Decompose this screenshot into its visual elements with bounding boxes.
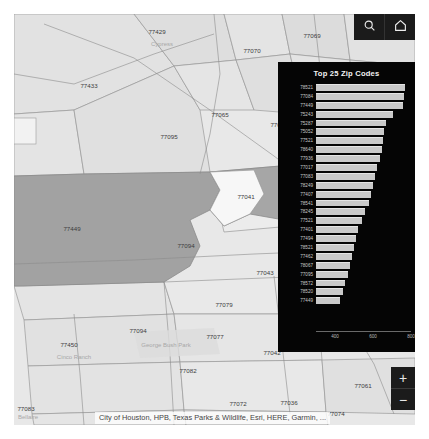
- home-button[interactable]: [384, 14, 415, 40]
- chart-bar-track: [316, 127, 411, 136]
- chart-bar-row[interactable]: 78521: [282, 83, 411, 92]
- chart-bar[interactable]: [316, 191, 371, 198]
- chart-bar-track: [316, 92, 411, 101]
- chart-bar-row[interactable]: 77449: [282, 101, 411, 110]
- chart-bar-track: [316, 252, 411, 261]
- chart-bar[interactable]: [316, 102, 403, 109]
- chart-bar-track: [316, 216, 411, 225]
- chart-bar-row[interactable]: 77521: [282, 136, 411, 145]
- chart-bar-row[interactable]: 77936: [282, 154, 411, 163]
- chart-bar-track: [316, 181, 411, 190]
- chart-bar-row[interactable]: 77449: [282, 296, 411, 305]
- chart-bar[interactable]: [316, 200, 369, 207]
- chart-bar[interactable]: [316, 226, 358, 233]
- chart-bar-track: [316, 207, 411, 216]
- chart-bar-row[interactable]: 75287: [282, 119, 411, 128]
- chart-bar-track: [316, 83, 411, 92]
- chart-bar-row[interactable]: 77017: [282, 163, 411, 172]
- chart-bar[interactable]: [316, 173, 375, 180]
- chart-bar-label: 78520: [282, 289, 316, 294]
- chart-bar[interactable]: [316, 84, 405, 91]
- chart-bar[interactable]: [316, 297, 340, 304]
- chart-x-axis: 400600800: [282, 331, 411, 345]
- chart-bar-row[interactable]: 77401: [282, 225, 411, 234]
- place-label: Cinco Ranch: [57, 354, 91, 360]
- chart-bar[interactable]: [316, 288, 343, 295]
- zip-label: 77082: [179, 367, 197, 374]
- chart-bar[interactable]: [316, 155, 380, 162]
- place-label: George Bush Park: [141, 342, 191, 348]
- chart-bar[interactable]: [316, 182, 373, 189]
- chart-bar-label: 78521: [282, 85, 316, 90]
- zip-label: 77069: [303, 32, 321, 39]
- zoom-in-button[interactable]: +: [391, 367, 415, 388]
- chart-bar-label: 77494: [282, 236, 316, 241]
- chart-bar[interactable]: [316, 253, 352, 260]
- chart-bar-row[interactable]: 77083: [282, 172, 411, 181]
- chart-bar-label: 75287: [282, 121, 316, 126]
- place-label: Bellaire: [18, 414, 39, 420]
- chart-bar-row[interactable]: 77095: [282, 270, 411, 279]
- chart-bar[interactable]: [316, 262, 350, 269]
- zip-label: 77036: [280, 399, 298, 406]
- search-icon: [363, 18, 376, 36]
- chart-bar-row[interactable]: 78520: [282, 287, 411, 296]
- chart-bar[interactable]: [316, 146, 382, 153]
- map-attribution: City of Houston, HPB, Texas Parks & Wild…: [95, 412, 330, 424]
- zip-label: 77094: [129, 327, 147, 334]
- zip-label: 77070: [243, 47, 261, 54]
- chart-bar[interactable]: [316, 235, 356, 242]
- axis-tick-label: 400: [331, 334, 339, 339]
- chart-bar-row[interactable]: 78245: [282, 207, 411, 216]
- chart-bar-track: [316, 261, 411, 270]
- chart-bar-row[interactable]: 77521: [282, 216, 411, 225]
- chart-bar[interactable]: [316, 111, 393, 118]
- chart-bar-row[interactable]: 77407: [282, 190, 411, 199]
- chart-bar-row[interactable]: 78249: [282, 181, 411, 190]
- chart-bar-label: 75243: [282, 112, 316, 117]
- map-application: 77429 77070 77069 77066 77433 77065 7706…: [0, 0, 429, 439]
- chart-bar-label: 77449: [282, 298, 316, 303]
- chart-bar[interactable]: [316, 208, 365, 215]
- search-button[interactable]: [354, 14, 384, 40]
- chart-bar-row[interactable]: 75052: [282, 127, 411, 136]
- chart-bar[interactable]: [316, 217, 362, 224]
- chart-bar-row[interactable]: 78521: [282, 243, 411, 252]
- chart-bar-track: [316, 199, 411, 208]
- chart-bar[interactable]: [316, 271, 348, 278]
- zip-label: 77041: [237, 193, 255, 200]
- map-tools-widget: [354, 14, 415, 40]
- chart-bar-row[interactable]: 78640: [282, 145, 411, 154]
- chart-bar-row[interactable]: 78067: [282, 261, 411, 270]
- chart-bar-label: 78640: [282, 147, 316, 152]
- chart-bar[interactable]: [316, 93, 404, 100]
- chart-bar[interactable]: [316, 120, 386, 127]
- zip-label: 77429: [148, 28, 166, 35]
- chart-bar-label: 78541: [282, 201, 316, 206]
- chart-bar-label: 77095: [282, 272, 316, 277]
- zoom-out-button[interactable]: −: [391, 388, 415, 410]
- chart-bar-track: [316, 296, 411, 305]
- chart-bar-label: 78521: [282, 245, 316, 250]
- chart-panel[interactable]: Top 25 Zip Codes 78521770847744975243752…: [278, 62, 415, 352]
- zip-label: 77077: [206, 333, 224, 340]
- zip-label: 77074: [327, 410, 345, 417]
- chart-bar-track: [316, 243, 411, 252]
- chart-bar[interactable]: [316, 244, 354, 251]
- axis-tick-label: 800: [407, 334, 415, 339]
- chart-bar-row[interactable]: 75243: [282, 110, 411, 119]
- chart-bar[interactable]: [316, 280, 345, 287]
- chart-bar-row[interactable]: 77084: [282, 92, 411, 101]
- chart-bar-row[interactable]: 77462: [282, 252, 411, 261]
- chart-bar[interactable]: [316, 164, 377, 171]
- chart-bar-row[interactable]: 77494: [282, 234, 411, 243]
- chart-bar[interactable]: [316, 128, 384, 135]
- chart-bar-label: 77083: [282, 174, 316, 179]
- chart-bar-label: 77462: [282, 254, 316, 259]
- chart-bar-row[interactable]: 78541: [282, 199, 411, 208]
- zip-label: 77061: [354, 382, 372, 389]
- zoom-control-widget: + −: [391, 367, 415, 410]
- chart-bar-label: 78245: [282, 209, 316, 214]
- chart-bar[interactable]: [316, 137, 383, 144]
- chart-bar-row[interactable]: 78572: [282, 279, 411, 288]
